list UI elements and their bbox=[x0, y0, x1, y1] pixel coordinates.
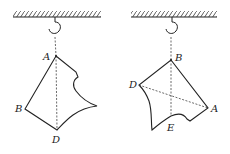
ceiling-hatch bbox=[13, 11, 101, 17]
lamina-outline bbox=[139, 60, 208, 130]
lamina-outline bbox=[25, 56, 97, 130]
right-figure: B D A E bbox=[128, 11, 218, 133]
ceiling-hatch bbox=[131, 11, 217, 17]
plumb-line-AD bbox=[56, 56, 57, 130]
label-E: E bbox=[166, 122, 175, 133]
label-D: D bbox=[128, 79, 137, 90]
left-figure: A B D bbox=[13, 11, 101, 145]
label-A: A bbox=[210, 103, 218, 114]
line-DA bbox=[139, 85, 208, 108]
label-A: A bbox=[42, 51, 50, 62]
label-B: B bbox=[14, 103, 22, 114]
label-D: D bbox=[51, 134, 60, 145]
plumb-line-top bbox=[55, 37, 56, 56]
hook-icon bbox=[166, 17, 177, 33]
hook-icon bbox=[49, 17, 60, 33]
label-B: B bbox=[174, 52, 182, 63]
diagram-canvas: A B D B D A E bbox=[0, 0, 230, 154]
